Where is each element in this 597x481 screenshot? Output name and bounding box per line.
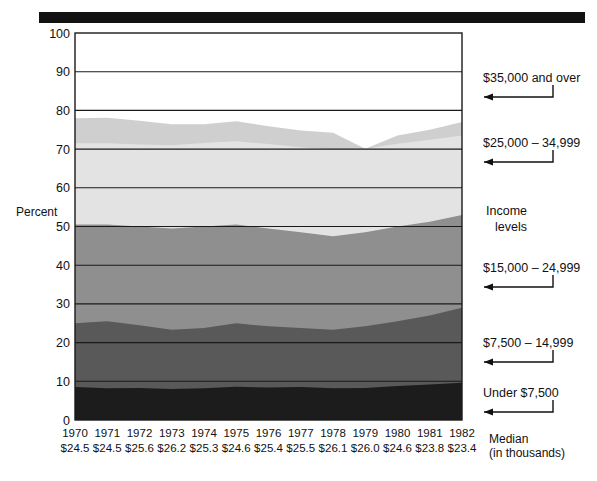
x-tick-label-1981: 1981: [417, 427, 443, 439]
median-value-1978: $26.1: [319, 442, 348, 454]
y-tick-label-10: 10: [56, 375, 70, 389]
x-axis-year-labels: 1970197119721973197419751976197719781979…: [62, 427, 475, 439]
area-series-group: [75, 118, 462, 420]
median-value-1976: $25.4: [254, 442, 283, 454]
y-tick-label-40: 40: [56, 259, 70, 273]
y-tick-label-70: 70: [56, 143, 70, 157]
median-value-1980: $24.6: [383, 442, 412, 454]
legend-label-3: $15,000 – 24,999: [483, 261, 580, 275]
median-value-1972: $25.6: [125, 442, 154, 454]
legend-arrow-line-3: [484, 275, 553, 287]
legend-arrow-head-2: [484, 158, 493, 165]
legend-arrow-line-1: [484, 85, 553, 97]
y-tick-label-30: 30: [56, 297, 70, 311]
median-value-1970: $24.5: [61, 442, 90, 454]
median-value-1974: $25.3: [190, 442, 219, 454]
median-income-row: $24.5$24.5$25.6$26.2$25.3$24.6$25.4$25.5…: [61, 442, 477, 454]
legend-label-2: $25,000 – 34,999: [483, 136, 580, 150]
y-tick-label-0: 0: [63, 414, 70, 428]
x-tick-label-1970: 1970: [62, 427, 88, 439]
median-value-1975: $24.6: [222, 442, 251, 454]
legend-arrow-head-4: [484, 358, 493, 365]
legend-arrow-head-5: [484, 408, 493, 415]
y-tick-label-90: 90: [56, 65, 70, 79]
median-caption-line1: Median: [489, 432, 528, 446]
legend-callouts-group: $35,000 and over$25,000 – 34,999$15,000 …: [483, 71, 580, 416]
median-value-1981: $23.8: [415, 442, 444, 454]
x-tick-label-1971: 1971: [94, 427, 120, 439]
legend-label-4: $7,500 – 14,999: [483, 336, 573, 350]
y-tick-label-50: 50: [56, 220, 70, 234]
median-value-1973: $26.2: [157, 442, 186, 454]
x-tick-label-1976: 1976: [256, 427, 282, 439]
x-tick-label-1982: 1982: [449, 427, 475, 439]
y-tick-label-100: 100: [49, 27, 70, 41]
x-tick-label-1974: 1974: [191, 427, 217, 439]
x-tick-label-1973: 1973: [159, 427, 185, 439]
x-tick-label-1980: 1980: [385, 427, 411, 439]
x-tick-label-1975: 1975: [223, 427, 249, 439]
median-value-1979: $26.0: [351, 442, 380, 454]
median-value-1971: $24.5: [93, 442, 122, 454]
stacked-area-chart-figure: 0102030405060708090100 Percent 197019711…: [0, 0, 597, 481]
x-tick-label-1978: 1978: [320, 427, 346, 439]
x-tick-label-1972: 1972: [127, 427, 153, 439]
legend-title-line1: Income: [486, 204, 527, 218]
y-axis-title: Percent: [16, 205, 58, 219]
area-band-1: [75, 383, 462, 420]
median-value-1977: $25.5: [286, 442, 315, 454]
median-caption-line2: (in thousands): [489, 446, 565, 460]
legend-arrow-line-2: [484, 150, 553, 162]
y-tick-label-60: 60: [56, 181, 70, 195]
legend-arrow-line-4: [484, 350, 553, 362]
y-tick-label-20: 20: [56, 336, 70, 350]
y-tick-label-80: 80: [56, 104, 70, 118]
x-tick-label-1979: 1979: [352, 427, 378, 439]
legend-arrow-head-1: [484, 93, 493, 100]
legend-label-5: Under $7,500: [483, 386, 559, 400]
x-tick-label-1977: 1977: [288, 427, 314, 439]
chart-svg: 0102030405060708090100 Percent 197019711…: [0, 0, 597, 481]
legend-arrow-line-5: [484, 400, 553, 412]
median-value-1982: $23.4: [448, 442, 477, 454]
legend-title-line2: levels: [495, 220, 527, 234]
legend-label-1: $35,000 and over: [483, 71, 580, 85]
y-axis-tick-labels: 0102030405060708090100: [49, 27, 70, 428]
legend-arrow-head-3: [484, 283, 493, 290]
